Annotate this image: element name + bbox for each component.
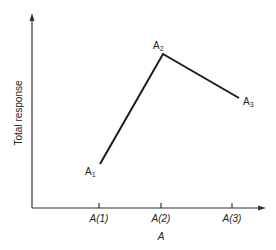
- x-axis: [32, 203, 266, 211]
- tick-label-a3: A(3): [222, 213, 242, 224]
- tick-label-a1: A(1): [89, 213, 109, 224]
- point-label-a3: A3: [243, 96, 254, 108]
- point-label-a2: A2: [153, 40, 164, 52]
- response-line: [100, 54, 239, 164]
- point-label-a1: A1: [85, 166, 96, 178]
- x-axis-label: A: [157, 231, 165, 242]
- y-axis-arrow-icon: [30, 13, 35, 21]
- y-axis: [30, 13, 35, 208]
- y-axis-label: Total response: [13, 80, 24, 145]
- chart-container: A(1) A(2) A(3) A Total response A1 A2 A3: [0, 0, 276, 250]
- x-axis-arrow-icon: [258, 206, 266, 211]
- tick-label-a2: A(2): [151, 213, 171, 224]
- chart-svg: A(1) A(2) A(3) A Total response A1 A2 A3: [0, 0, 276, 250]
